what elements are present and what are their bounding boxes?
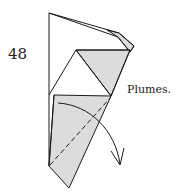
fold-arrowhead bbox=[111, 148, 124, 165]
top-flap-inner-edge bbox=[49, 13, 118, 37]
top-flap-edge bbox=[49, 13, 134, 52]
origami-diagram bbox=[0, 0, 182, 196]
lower-shaded-flap bbox=[49, 95, 111, 188]
middle-shaded-triangle bbox=[76, 50, 130, 96]
top-flap-shade bbox=[107, 30, 134, 52]
